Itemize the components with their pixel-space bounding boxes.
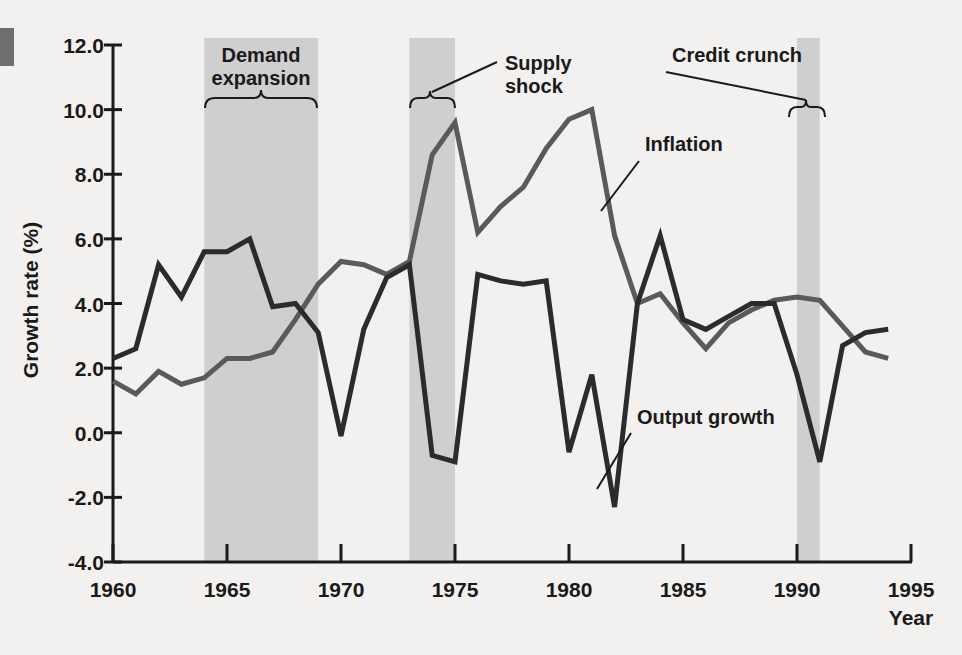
left-edge-bar bbox=[0, 28, 14, 66]
y-tick-label-0: 0.0 bbox=[75, 422, 104, 445]
x-tick-label-1980: 1980 bbox=[546, 578, 593, 601]
y-tick-label-neg2: -2.0 bbox=[68, 486, 104, 509]
y-tick-label-6: 6.0 bbox=[75, 228, 104, 251]
output-growth-label: Output growth bbox=[637, 406, 775, 428]
y-tick-label-12: 12.0 bbox=[63, 34, 104, 57]
y-tick-label-2: 2.0 bbox=[75, 357, 104, 380]
y-tick-label-neg4: -4.0 bbox=[68, 551, 104, 574]
y-tick-label-8: 8.0 bbox=[75, 163, 104, 186]
y-axis-title: Growth rate (%) bbox=[19, 222, 42, 378]
demand-expansion-band bbox=[204, 38, 318, 562]
credit-crunch-label: Credit crunch bbox=[672, 44, 802, 66]
x-tick-label-1990: 1990 bbox=[774, 578, 821, 601]
x-tick-label-1995: 1995 bbox=[888, 578, 935, 601]
supply-shock-band bbox=[409, 38, 455, 562]
x-tick-label-1965: 1965 bbox=[204, 578, 251, 601]
x-tick-label-1985: 1985 bbox=[660, 578, 707, 601]
growth-rate-chart: 12.0 10.0 8.0 6.0 4.0 2.0 0.0 -2.0 -4.0 … bbox=[0, 0, 962, 655]
demand-expansion-label-line1: Demand bbox=[222, 44, 301, 66]
y-tick-label-10: 10.0 bbox=[63, 99, 104, 122]
demand-expansion-label-line2: expansion bbox=[212, 67, 311, 89]
y-tick-label-4: 4.0 bbox=[75, 293, 104, 316]
chart-figure: 12.0 10.0 8.0 6.0 4.0 2.0 0.0 -2.0 -4.0 … bbox=[0, 0, 962, 655]
x-axis-title: Year bbox=[889, 606, 933, 629]
inflation-label: Inflation bbox=[645, 133, 723, 155]
x-tick-label-1960: 1960 bbox=[90, 578, 137, 601]
supply-shock-label-line2: shock bbox=[505, 75, 564, 97]
x-tick-label-1975: 1975 bbox=[432, 578, 479, 601]
x-tick-label-1970: 1970 bbox=[318, 578, 365, 601]
supply-shock-label-line1: Supply bbox=[505, 52, 573, 74]
